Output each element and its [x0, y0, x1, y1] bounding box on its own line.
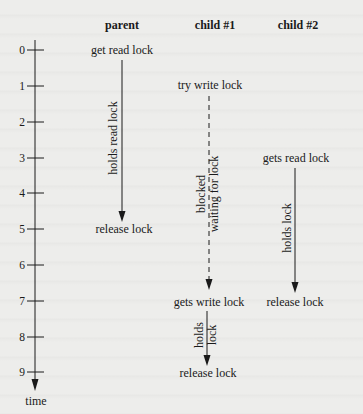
- child2-hold-label: holds lock: [280, 203, 294, 253]
- tick-label: 3: [19, 152, 25, 164]
- child1-blocked-label-line1: blocked: [194, 175, 208, 213]
- arrow-down-icon: [119, 211, 126, 222]
- child1-acquired-label: gets write lock: [174, 295, 245, 309]
- child1-blocked-label-line2: waiting for lock: [207, 156, 221, 233]
- child2-start-label: gets read lock: [263, 151, 330, 165]
- child1-holds-label-line1: holds: [192, 322, 206, 348]
- parent-timeline: get read lock holds read lock release lo…: [91, 43, 153, 236]
- parent-start-label: get read lock: [91, 43, 153, 57]
- tick-label: 6: [19, 259, 25, 271]
- arrow-down-icon: [206, 279, 213, 290]
- header-parent: parent: [105, 18, 139, 32]
- tick-label: 0: [19, 44, 25, 56]
- axis-arrow-icon: [32, 379, 39, 391]
- tick-label: 7: [19, 295, 25, 307]
- axis-label: time: [25, 394, 46, 408]
- axis-tick-labels: 0 1 2 3 4 5 6 7 8 9: [19, 44, 25, 378]
- child1-holds-label-line2: lock: [205, 325, 219, 346]
- tick-label: 8: [19, 331, 25, 343]
- header-child2: child #2: [278, 18, 318, 32]
- child2-end-label: release lock: [267, 295, 324, 309]
- parent-hold-label: holds read lock: [106, 101, 120, 174]
- time-axis: 0 1 2 3 4 5 6 7 8 9 time: [19, 40, 47, 408]
- tick-label: 2: [19, 116, 25, 128]
- tick-label: 5: [19, 223, 25, 235]
- child1-start-label: try write lock: [178, 78, 243, 92]
- arrow-down-icon: [204, 355, 211, 366]
- child1-timeline: try write lock blocked waiting for lock …: [174, 78, 245, 380]
- tick-label: 9: [19, 366, 25, 378]
- header-child1: child #1: [195, 18, 235, 32]
- lock-timeline-diagram: parent child #1 child #2 0 1 2: [0, 0, 363, 414]
- parent-end-label: release lock: [96, 222, 153, 236]
- tick-label: 4: [19, 187, 25, 199]
- child1-end-label: release lock: [180, 366, 237, 380]
- arrow-down-icon: [292, 282, 299, 293]
- child2-timeline: gets read lock holds lock release lock: [263, 151, 330, 309]
- tick-label: 1: [19, 80, 25, 92]
